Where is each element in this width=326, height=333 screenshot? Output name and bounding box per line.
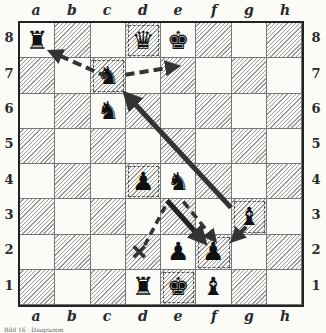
square-f1: ♝ xyxy=(196,270,231,305)
square-a8: ♜ xyxy=(20,23,55,58)
square-e4: ♞ xyxy=(161,164,196,199)
square-a7 xyxy=(20,58,55,93)
rank-label-4: 4 xyxy=(2,172,16,187)
square-b2 xyxy=(55,235,90,270)
square-c5 xyxy=(91,129,126,164)
square-h2 xyxy=(267,235,302,270)
square-h4 xyxy=(267,164,302,199)
square-f6 xyxy=(196,94,231,129)
square-e6 xyxy=(161,94,196,129)
square-d4: ♟ xyxy=(126,164,161,199)
file-label-f: f xyxy=(196,308,232,324)
square-h5 xyxy=(267,129,302,164)
rank-label-1: 1 xyxy=(2,278,16,293)
square-d3 xyxy=(126,199,161,234)
square-c8 xyxy=(91,23,126,58)
file-label-e: e xyxy=(160,308,196,324)
black-knight-icon: ♞ xyxy=(91,94,125,128)
file-label-g: g xyxy=(231,2,267,18)
square-d6 xyxy=(126,94,161,129)
square-h7 xyxy=(267,58,302,93)
square-g3: ♝ xyxy=(232,199,267,234)
rank-label-3: 3 xyxy=(2,207,16,222)
rank-label-7: 7 xyxy=(309,66,323,81)
file-label-c: c xyxy=(89,2,125,18)
black-pawn-icon: ♟ xyxy=(161,235,195,269)
file-label-d: d xyxy=(125,2,161,18)
square-g8 xyxy=(232,23,267,58)
square-h3 xyxy=(267,199,302,234)
rank-label-8: 8 xyxy=(309,30,323,45)
square-g5 xyxy=(232,129,267,164)
rank-label-6: 6 xyxy=(309,101,323,116)
square-g7 xyxy=(232,58,267,93)
square-c7: ♞ xyxy=(91,58,126,93)
square-a1 xyxy=(20,270,55,305)
square-c2 xyxy=(91,235,126,270)
rank-label-4: 4 xyxy=(309,172,323,187)
file-label-a: a xyxy=(18,308,54,324)
square-c3 xyxy=(91,199,126,234)
square-e5 xyxy=(161,129,196,164)
square-c6: ♞ xyxy=(91,94,126,129)
square-f8 xyxy=(196,23,231,58)
square-a6 xyxy=(20,94,55,129)
rank-label-5: 5 xyxy=(309,136,323,151)
square-f5 xyxy=(196,129,231,164)
square-d5 xyxy=(126,129,161,164)
square-g1 xyxy=(232,270,267,305)
square-f7 xyxy=(196,58,231,93)
square-e1: ♚ xyxy=(161,270,196,305)
file-label-d: d xyxy=(125,308,161,324)
square-a2 xyxy=(20,235,55,270)
file-label-a: a xyxy=(18,2,54,18)
black-rook-icon: ♜ xyxy=(126,270,160,304)
square-d1: ♜ xyxy=(126,270,161,305)
square-c1 xyxy=(91,270,126,305)
file-label-b: b xyxy=(54,2,90,18)
square-h8 xyxy=(267,23,302,58)
square-b6 xyxy=(55,94,90,129)
rank-label-5: 5 xyxy=(2,136,16,151)
file-label-h: h xyxy=(267,2,303,18)
black-knight-icon: ♞ xyxy=(161,164,195,198)
figure-caption: Bild 16 · Diagramm xyxy=(4,326,63,333)
square-e7 xyxy=(161,58,196,93)
square-b7 xyxy=(55,58,90,93)
file-label-b: b xyxy=(54,308,90,324)
square-b3 xyxy=(55,199,90,234)
square-c4 xyxy=(91,164,126,199)
square-e8: ♚ xyxy=(161,23,196,58)
file-label-c: c xyxy=(89,308,125,324)
square-e3 xyxy=(161,199,196,234)
square-b4 xyxy=(55,164,90,199)
chess-board: ♜♛♚♞♞♟♞♝♟♟♜♚♝ xyxy=(18,21,304,307)
square-g6 xyxy=(232,94,267,129)
square-b5 xyxy=(55,129,90,164)
rank-label-6: 6 xyxy=(2,101,16,116)
rank-label-2: 2 xyxy=(2,242,16,257)
file-label-h: h xyxy=(267,308,303,324)
black-queen-icon: ♛ xyxy=(126,23,160,57)
square-h6 xyxy=(267,94,302,129)
black-king-icon: ♚ xyxy=(161,270,195,304)
square-a4 xyxy=(20,164,55,199)
square-d7 xyxy=(126,58,161,93)
square-f2: ♟ xyxy=(196,235,231,270)
square-h1 xyxy=(267,270,302,305)
black-knight-icon: ♞ xyxy=(91,58,125,92)
square-b8 xyxy=(55,23,90,58)
rank-label-2: 2 xyxy=(309,242,323,257)
black-bishop-icon: ♝ xyxy=(232,199,266,233)
square-d2 xyxy=(126,235,161,270)
square-g4 xyxy=(232,164,267,199)
rank-label-7: 7 xyxy=(2,66,16,81)
rank-label-8: 8 xyxy=(2,30,16,45)
square-a3 xyxy=(20,199,55,234)
file-label-g: g xyxy=(231,308,267,324)
file-label-e: e xyxy=(160,2,196,18)
square-f3 xyxy=(196,199,231,234)
file-label-f: f xyxy=(196,2,232,18)
square-d8: ♛ xyxy=(126,23,161,58)
black-king-icon: ♚ xyxy=(161,23,195,57)
